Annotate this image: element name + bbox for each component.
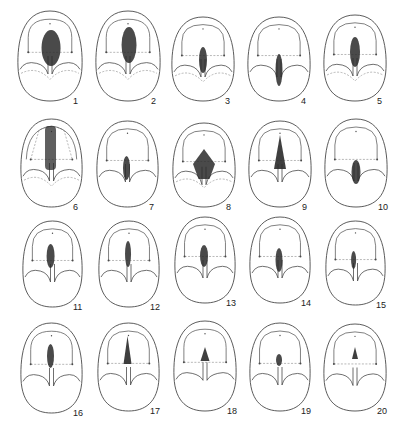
figure-number-label: 2	[151, 96, 156, 106]
figure-number-label: 5	[377, 96, 382, 106]
diagram-1	[15, 8, 85, 104]
figure-number-label: 12	[150, 302, 160, 312]
figure-number-label: 11	[73, 302, 82, 312]
shaded-region	[47, 344, 54, 368]
diagram-11	[20, 218, 85, 310]
shaded-region	[200, 245, 208, 267]
figure-number-label: 16	[73, 408, 83, 418]
shaded-region	[125, 241, 131, 267]
figure-number-label: 1	[73, 96, 78, 106]
figure-number-label: 19	[301, 406, 311, 416]
diagram-4	[245, 14, 313, 104]
shaded-region	[350, 37, 360, 67]
shaded-region	[352, 160, 361, 184]
figure-number-label: 20	[377, 406, 387, 416]
diagram-10	[322, 116, 390, 210]
shaded-region	[124, 336, 132, 364]
figure-number-label: 8	[226, 202, 231, 212]
shaded-region	[42, 30, 61, 66]
diagram-12	[96, 218, 162, 310]
shaded-region	[122, 27, 137, 63]
diagram-7	[94, 118, 161, 210]
diagram-6	[18, 116, 85, 210]
diagram-5	[321, 12, 389, 104]
figure-number-label: 10	[378, 202, 388, 212]
shaded-region	[47, 244, 55, 268]
diagram-13	[172, 214, 238, 306]
figure-number-label: 14	[301, 298, 311, 308]
diagram-15	[323, 218, 388, 308]
figure-number-label: 15	[376, 300, 386, 310]
diagram-2	[93, 8, 163, 104]
shaded-region	[351, 251, 356, 269]
diagram-19	[247, 320, 313, 414]
figure-plate: 1234567891011121314151617181920	[0, 0, 404, 425]
diagram-20	[321, 321, 389, 414]
shaded-region	[276, 54, 283, 86]
figure-number-label: 3	[225, 96, 230, 106]
shaded-region	[276, 354, 282, 366]
shaded-region	[199, 47, 207, 73]
diagram-18	[171, 318, 239, 414]
shaded-region	[45, 126, 56, 170]
diagram-8	[170, 120, 238, 210]
shaded-region	[123, 156, 130, 180]
outline	[250, 323, 310, 411]
shaded-region	[274, 135, 286, 169]
figure-number-label: 7	[149, 202, 154, 212]
figure-number-label: 6	[73, 202, 78, 212]
figure-number-label: 18	[227, 406, 237, 416]
shaded-region	[276, 248, 283, 272]
shaded-region	[201, 347, 210, 361]
diagram-9	[246, 118, 314, 210]
diagram-16	[18, 320, 85, 416]
diagram-17	[95, 320, 162, 414]
figure-number-label: 17	[150, 406, 160, 416]
figure-number-label: 4	[301, 96, 306, 106]
shaded-region	[352, 347, 358, 359]
diagram-3	[169, 14, 237, 104]
diagram-14	[247, 214, 313, 306]
figure-number-label: 9	[302, 202, 307, 212]
figure-number-label: 13	[226, 298, 236, 308]
outline	[98, 323, 159, 411]
